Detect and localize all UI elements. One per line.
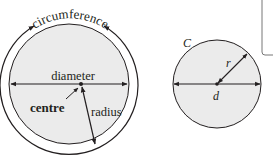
- diameter-symbol: d: [213, 89, 220, 103]
- diameter-label: diameter: [51, 69, 96, 83]
- radius-label: radius: [91, 105, 122, 119]
- radius-symbol: r: [226, 56, 231, 70]
- circumference-symbol: C: [183, 36, 192, 50]
- symbol-circle: C r d: [173, 36, 261, 128]
- circle-parts-diagram: circumference diameter centre radius C r…: [0, 0, 273, 167]
- partial-box-edge: [262, 0, 273, 55]
- centre-label: centre: [30, 100, 65, 115]
- centre-dot: [79, 82, 83, 86]
- labelled-circle: circumference diameter centre radius: [0, 6, 138, 154]
